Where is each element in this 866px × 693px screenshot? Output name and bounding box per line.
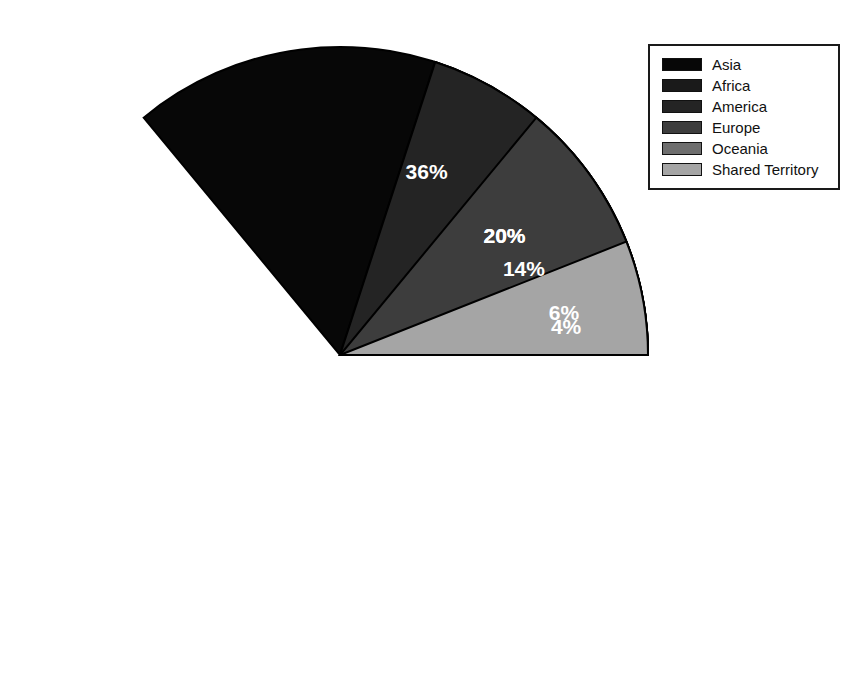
legend-swatch-icon: [662, 163, 702, 176]
legend-item-list: AsiaAfricaAmericaEuropeOceaniaShared Ter…: [650, 54, 838, 180]
legend-item-shared-territory[interactable]: Shared Territory: [650, 159, 838, 180]
legend-item-oceania[interactable]: Oceania: [650, 138, 838, 159]
pie-slice-label-shared-territory: 6%: [549, 301, 580, 324]
legend-swatch-icon: [662, 142, 702, 155]
pie-slice-label-america: 20%: [483, 224, 525, 247]
legend-item-label: America: [712, 99, 767, 114]
legend-swatch-icon: [662, 100, 702, 113]
pie-slice-label-europe: 14%: [503, 257, 545, 280]
pie-slice-label-asia: 36%: [406, 160, 448, 183]
legend-item-label: Africa: [712, 78, 750, 93]
legend-item-europe[interactable]: Europe: [650, 117, 838, 138]
legend-item-label: Oceania: [712, 141, 768, 156]
legend-item-label: Europe: [712, 120, 760, 135]
legend-box: AsiaAfricaAmericaEuropeOceaniaShared Ter…: [648, 44, 840, 190]
legend-swatch-icon: [662, 58, 702, 71]
pie-chart-figure: 36%20%20%14%4%6%: [30, 45, 650, 665]
pie-chart-svg: 36%20%20%14%4%6%: [30, 45, 650, 665]
legend-item-africa[interactable]: Africa: [650, 75, 838, 96]
legend-item-label: Asia: [712, 57, 741, 72]
pie-chart-page: 36%20%20%14%4%6% AsiaAfricaAmericaEurope…: [0, 0, 866, 693]
legend-swatch-icon: [662, 121, 702, 134]
legend-swatch-icon: [662, 79, 702, 92]
legend-item-america[interactable]: America: [650, 96, 838, 117]
legend-item-asia[interactable]: Asia: [650, 54, 838, 75]
legend-item-label: Shared Territory: [712, 162, 818, 177]
